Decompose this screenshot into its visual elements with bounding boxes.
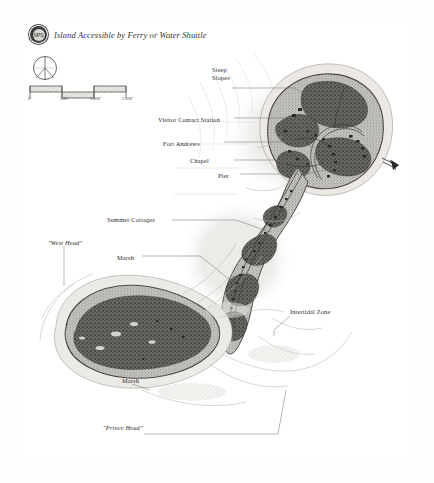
annotation-west-head: "West Head" (48, 239, 82, 246)
annotation-steep-slopes: Steep (212, 66, 227, 73)
annotation-visitor-contact-station: Visitor Contact Station (158, 116, 220, 123)
map-header: NPS Island Accessible by Ferry or Water … (30, 26, 207, 43)
annotation-summer-cottages: Summer Cottages (107, 216, 155, 223)
scale-label-0: 0' (28, 96, 32, 101)
scale-label-500: 500' (60, 96, 69, 101)
scale-label-1000: 1000' (90, 96, 101, 101)
annotation-fort-andrews: Fort Andrews (163, 140, 200, 147)
map-title: Island Accessible by Ferry or Water Shut… (54, 30, 207, 40)
park-service-badge-icon: NPS (30, 26, 47, 43)
map-page: NPS Island Accessible by Ferry or Water … (0, 0, 434, 483)
badge-label: NPS (30, 26, 47, 43)
annotation-steep-slopes-line2: Slopes (212, 74, 230, 81)
scale-label-1500: 1500' (122, 96, 133, 101)
annotation-intertidal-zone: Intertidal Zone (290, 308, 330, 315)
compass-rose-icon (30, 54, 64, 86)
annotation-prince-head: "Prince Head" (103, 424, 143, 431)
annotation-marsh-south: Marsh (122, 377, 139, 384)
annotation-pier: Pier (218, 172, 229, 179)
scale-bar-labels: 0' 500' 1000' 1500' (24, 96, 144, 108)
annotation-marsh-north: Marsh (117, 254, 134, 261)
annotation-chapel: Chapel (190, 157, 209, 164)
